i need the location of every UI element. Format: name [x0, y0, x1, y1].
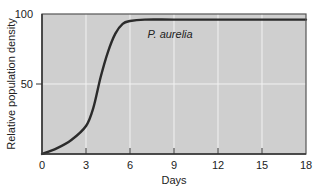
x-tick-label: 6 — [127, 159, 133, 171]
x-tick-label: 3 — [83, 159, 89, 171]
y-axis-label: Relative population density — [5, 18, 17, 150]
x-tick-label: 9 — [171, 159, 177, 171]
x-axis-label: Days — [161, 174, 187, 186]
x-tick-label: 0 — [39, 159, 45, 171]
x-tick-label: 18 — [300, 159, 312, 171]
x-tick-label: 12 — [212, 159, 224, 171]
y-tick-label: 50 — [21, 78, 33, 90]
logistic-growth-chart: 036912151850100 P. aurelia Days Relative… — [0, 0, 317, 191]
series-annotation-p-aurelia: P. aurelia — [148, 28, 193, 40]
x-tick-label: 15 — [256, 159, 268, 171]
y-tick-label: 100 — [15, 8, 33, 20]
